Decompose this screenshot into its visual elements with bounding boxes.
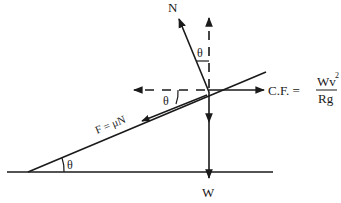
normal-label: N bbox=[168, 0, 178, 15]
mid-angle-arc bbox=[176, 90, 178, 104]
normal-force-arrow bbox=[179, 19, 209, 92]
cf-exponent: 2 bbox=[335, 71, 339, 80]
base-angle-arc bbox=[62, 158, 64, 172]
cf-denominator: Rg bbox=[318, 91, 334, 106]
theta-base-label: θ bbox=[67, 158, 73, 172]
banked-road-force-diagram: θ N θ θ C.F. = Wv 2 Rg F = μN W bbox=[0, 0, 341, 203]
theta-mid-label: θ bbox=[163, 94, 169, 108]
weight-label: W bbox=[202, 185, 215, 200]
cf-prefix: C.F. = bbox=[268, 83, 300, 98]
centrifugal-force-label: C.F. = Wv 2 Rg bbox=[268, 71, 339, 106]
incline-line bbox=[28, 72, 266, 172]
theta-top-label: θ bbox=[197, 46, 203, 60]
friction-force-arrow bbox=[142, 95, 207, 121]
cf-numerator: Wv bbox=[317, 74, 336, 89]
